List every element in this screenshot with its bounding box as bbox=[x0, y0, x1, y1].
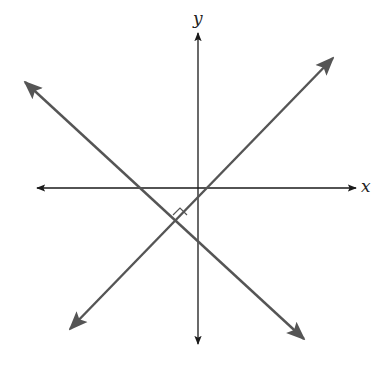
line-negative-slope bbox=[25, 82, 304, 339]
line-positive-slope bbox=[70, 58, 333, 329]
y-axis-label: y bbox=[193, 10, 203, 27]
coordinate-plane bbox=[0, 0, 392, 365]
x-axis-label: x bbox=[361, 178, 371, 195]
diagram-canvas: y x bbox=[0, 0, 392, 365]
